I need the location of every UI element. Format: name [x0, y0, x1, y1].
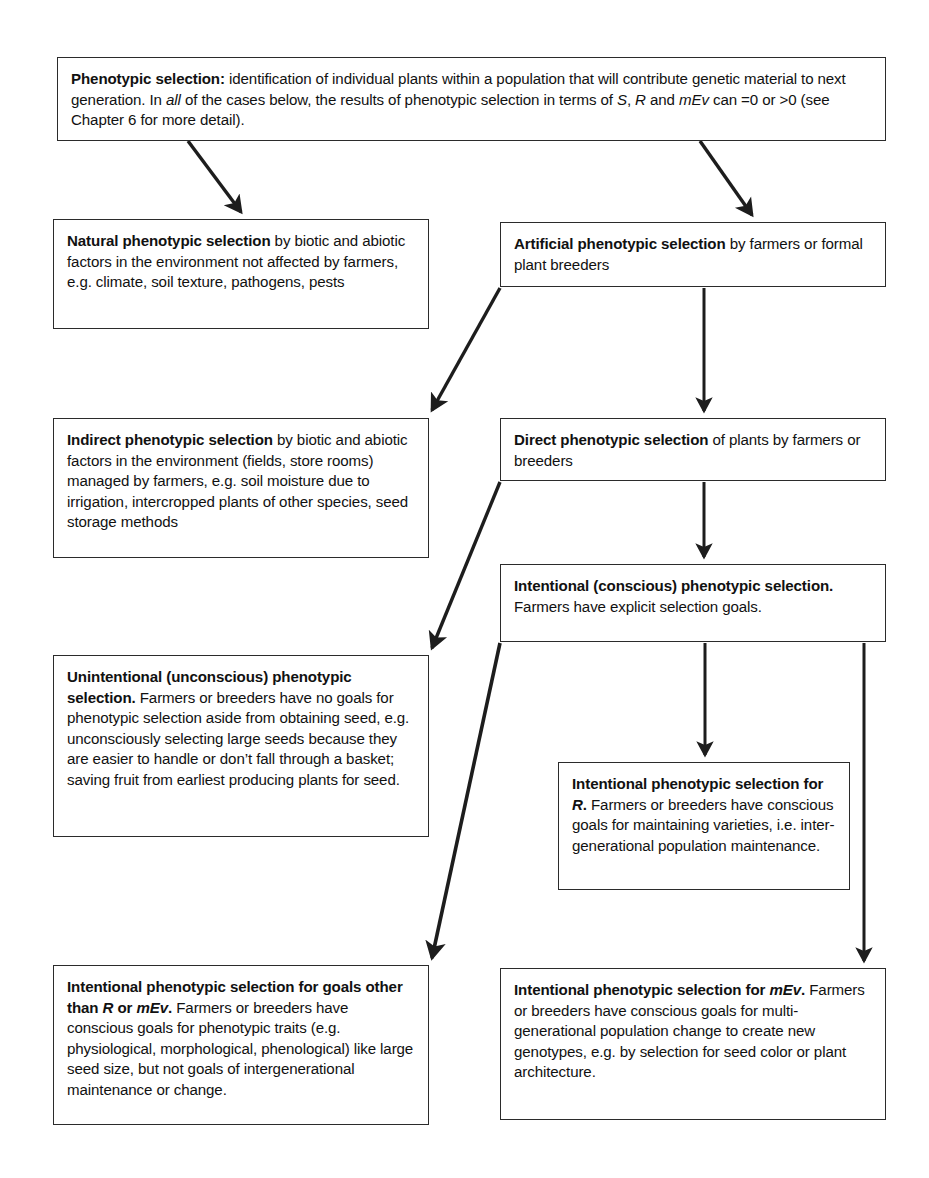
node-conscious-lead: Intentional (conscious) phenotypic selec… — [514, 577, 833, 594]
node-artificial-lead: Artificial phenotypic selection — [514, 235, 726, 252]
node-root-body-3: , — [627, 91, 635, 108]
node-other-em-1: R — [103, 999, 114, 1016]
node-root-em-1: all — [166, 91, 181, 108]
node-unconscious-text: Unintentional (unconscious) phenotypic s… — [67, 667, 415, 790]
node-direct-lead: Direct phenotypic selection — [514, 431, 708, 448]
node-mev-text: Intentional phenotypic selection for mEv… — [514, 980, 872, 1083]
node-indirect-phenotypic-selection[interactable]: Indirect phenotypic selection by biotic … — [53, 418, 429, 558]
node-r-em-1: R — [572, 796, 583, 813]
node-conscious-body: Farmers have explicit selection goals. — [514, 598, 762, 615]
edge-conscious-to-other-goals — [432, 643, 500, 958]
node-indirect-lead: Indirect phenotypic selection — [67, 431, 273, 448]
node-indirect-text: Indirect phenotypic selection by biotic … — [67, 430, 415, 533]
flowchart-page: Phenotypic selection: identification of … — [0, 0, 929, 1178]
node-root-em-3: R — [635, 91, 646, 108]
edge-artificial-to-indirect — [432, 288, 500, 410]
edge-root-to-artificial — [700, 141, 752, 215]
node-root-text: Phenotypic selection: identification of … — [71, 69, 872, 131]
node-conscious-text: Intentional (conscious) phenotypic selec… — [514, 576, 872, 617]
node-other-text: Intentional phenotypic selection for goa… — [67, 977, 415, 1100]
edge-direct-to-unconscious — [432, 482, 500, 648]
node-root-lead: Phenotypic selection: — [71, 70, 225, 87]
node-other-em-2: mEv — [136, 999, 168, 1016]
node-unintentional-unconscious-phenotypic-selection[interactable]: Unintentional (unconscious) phenotypic s… — [53, 655, 429, 837]
node-r-lead-1: Intentional phenotypic selection for — [572, 775, 823, 792]
node-root-em-4: mEv — [679, 91, 709, 108]
node-artificial-text: Artificial phenotypic selection by farme… — [514, 234, 872, 275]
node-direct-phenotypic-selection[interactable]: Direct phenotypic selection of plants by… — [500, 418, 886, 481]
node-root-body-4: and — [646, 91, 679, 108]
node-other-lead-2: or — [113, 999, 136, 1016]
node-natural-lead: Natural phenotypic selection — [67, 232, 271, 249]
node-mev-em-1: mEv — [769, 981, 801, 998]
node-root-body-2: of the cases below, the results of pheno… — [181, 91, 617, 108]
node-intentional-conscious-phenotypic-selection[interactable]: Intentional (conscious) phenotypic selec… — [500, 564, 886, 642]
node-phenotypic-selection[interactable]: Phenotypic selection: identification of … — [57, 57, 886, 141]
edge-root-to-natural — [188, 141, 241, 212]
node-intentional-phenotypic-selection-other-goals[interactable]: Intentional phenotypic selection for goa… — [53, 965, 429, 1125]
node-r-body: Farmers or breeders have conscious goals… — [572, 796, 834, 854]
node-natural-phenotypic-selection[interactable]: Natural phenotypic selection by biotic a… — [53, 219, 429, 329]
node-intentional-phenotypic-selection-for-r[interactable]: Intentional phenotypic selection for R. … — [558, 762, 850, 890]
node-intentional-phenotypic-selection-for-mev[interactable]: Intentional phenotypic selection for mEv… — [500, 968, 886, 1120]
node-artificial-phenotypic-selection[interactable]: Artificial phenotypic selection by farme… — [500, 222, 886, 287]
node-r-text: Intentional phenotypic selection for R. … — [572, 774, 836, 856]
node-direct-text: Direct phenotypic selection of plants by… — [514, 430, 872, 471]
node-natural-text: Natural phenotypic selection by biotic a… — [67, 231, 415, 293]
node-mev-lead-1: Intentional phenotypic selection for — [514, 981, 769, 998]
node-root-em-2: S — [617, 91, 627, 108]
